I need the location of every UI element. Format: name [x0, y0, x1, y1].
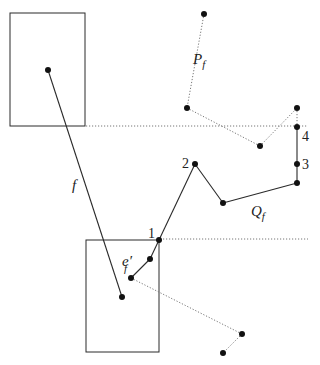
vertex-dot: [128, 275, 134, 281]
vertex-dot: [119, 294, 125, 300]
edge-q3: [223, 183, 297, 203]
label-f: f: [72, 177, 78, 193]
dotted-paths: [131, 14, 297, 353]
vertex-dot: [239, 331, 245, 337]
edge-p3: [260, 108, 297, 146]
vertex-dot: [156, 237, 162, 243]
vertex-dot: [220, 350, 226, 356]
vertex-dot: [192, 161, 198, 167]
guide-lines: [86, 126, 308, 239]
diagram-canvas: f Pf Qf e′f 1 2 3 4: [0, 0, 320, 365]
vertex-dot: [294, 105, 300, 111]
vertex-dot: [45, 67, 51, 73]
vertex-dot: [201, 11, 207, 17]
label-node-2: 2: [182, 156, 189, 171]
labels: f Pf Qf e′f 1 2 3 4: [72, 51, 309, 274]
edge-q2: [195, 164, 223, 203]
label-e-prime: e′f: [122, 253, 133, 274]
edge-p2: [187, 108, 260, 146]
label-node-1: 1: [148, 226, 155, 241]
edge-e1: [150, 240, 159, 259]
vertex-dot: [294, 161, 300, 167]
vertex-dot: [294, 124, 300, 130]
vertex-dot: [147, 256, 153, 262]
edge-e2: [131, 259, 150, 278]
edge-b1: [131, 278, 242, 334]
vertex-dots: [45, 11, 300, 356]
vertex-dot: [257, 143, 263, 149]
label-node-3: 3: [302, 157, 309, 172]
vertex-dot: [294, 180, 300, 186]
edge-q1: [159, 164, 195, 240]
label-node-4: 4: [302, 129, 309, 144]
edge-b2: [223, 334, 242, 353]
label-Q: Qf: [251, 203, 267, 222]
vertex-dot: [184, 105, 190, 111]
vertex-dot: [220, 200, 226, 206]
